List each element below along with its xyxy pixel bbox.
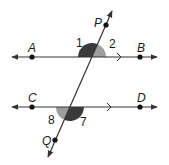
label-b: B <box>137 41 145 55</box>
point-c <box>29 104 34 109</box>
label-a: A <box>27 41 36 55</box>
label-d: D <box>137 91 146 105</box>
angle-label-7: 7 <box>80 115 87 129</box>
label-c: C <box>28 91 37 105</box>
label-q: Q <box>42 134 51 148</box>
angle-label-1: 1 <box>76 36 83 50</box>
angle-label-2: 2 <box>109 37 116 51</box>
point-a <box>29 54 34 59</box>
geometry-diagram: A B C D P Q 1 2 8 7 <box>0 0 169 165</box>
angle-label-8: 8 <box>48 113 55 127</box>
point-p <box>103 22 108 27</box>
point-d <box>137 104 142 109</box>
point-b <box>137 54 142 59</box>
transversal-pq <box>48 11 112 157</box>
point-q <box>52 137 57 142</box>
label-p: P <box>94 16 102 30</box>
